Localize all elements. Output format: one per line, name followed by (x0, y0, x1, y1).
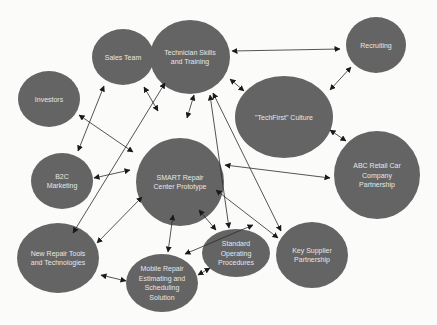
node-label: Procedures (218, 259, 254, 266)
node-label: Partnership (294, 256, 330, 264)
node-ellipse (31, 153, 93, 209)
node-label: Scheduling (145, 284, 180, 292)
edge-sales-smart (144, 87, 158, 111)
diagram-canvas: Sales TeamTechnician Skillsand TrainingR… (0, 0, 437, 325)
node-label: SMART Repair (157, 174, 204, 182)
node-label: Estimating and (139, 275, 185, 283)
node-recruiting: Recruiting (346, 17, 406, 73)
node-label: Partnership (359, 181, 395, 189)
node-label: Solution (149, 294, 174, 301)
node-abc: ABC Retail CarCompanyPartnership (334, 131, 420, 219)
node-ellipse (150, 20, 230, 94)
edge-tech-smart (187, 95, 194, 118)
edge-tech-techfirst (230, 79, 244, 91)
edge-b2c-smart (94, 170, 130, 178)
node-ellipse (136, 138, 224, 226)
edge-smart-newtools (97, 197, 142, 243)
node-label: B2C (55, 173, 69, 180)
node-label: Company (362, 172, 392, 180)
node-label: Operating (221, 250, 252, 258)
node-label: Investors (35, 96, 64, 103)
node-label: Key Supplier (292, 247, 332, 255)
node-newtools: New Repair Toolsand Technologies (17, 223, 99, 293)
node-label: Recruiting (360, 42, 392, 50)
node-mobile: Mobile RepairEstimating andSchedulingSol… (126, 254, 198, 312)
node-label: ABC Retail Car (353, 162, 401, 169)
node-b2c: B2CMarketing (31, 153, 93, 209)
node-smart: SMART RepairCenter Prototype (136, 138, 224, 226)
edge-newtools-mobile (101, 275, 126, 281)
node-label: Mobile Repair (140, 265, 184, 273)
edge-techfirst-abc (330, 130, 346, 141)
edge-mobile-sop (198, 268, 210, 275)
node-ellipse (276, 222, 348, 288)
node-sales: Sales Team (92, 29, 154, 85)
edge-recruiting-techfirst (330, 67, 351, 90)
edge-smart-abc (225, 165, 330, 178)
edge-investors-smart (79, 115, 133, 152)
network-diagram: Sales TeamTechnician Skillsand TrainingR… (0, 0, 437, 325)
node-label: Standard (222, 240, 251, 247)
node-supplier: Key SupplierPartnership (276, 222, 348, 288)
nodes-layer: Sales TeamTechnician Skillsand TrainingR… (17, 17, 420, 312)
node-label: Center Prototype (154, 183, 207, 191)
edge-tech-recruiting (232, 49, 340, 51)
node-ellipse (17, 223, 99, 293)
node-label: Marketing (47, 182, 78, 190)
node-label: and Training (171, 58, 210, 66)
node-tech: Technician Skillsand Training (150, 20, 230, 94)
edge-sales-b2c (78, 86, 104, 151)
node-ellipse (126, 254, 198, 312)
node-label: and Technologies (31, 259, 86, 267)
node-investors: Investors (18, 71, 80, 127)
node-label: Technician Skills (164, 49, 216, 56)
node-label: Sales Team (105, 54, 142, 61)
node-techfirst: "TechFirst" Culture (235, 76, 333, 158)
node-label: New Repair Tools (31, 250, 86, 258)
node-sop: StandardOperatingProcedures (202, 229, 270, 277)
node-label: "TechFirst" Culture (255, 114, 313, 121)
